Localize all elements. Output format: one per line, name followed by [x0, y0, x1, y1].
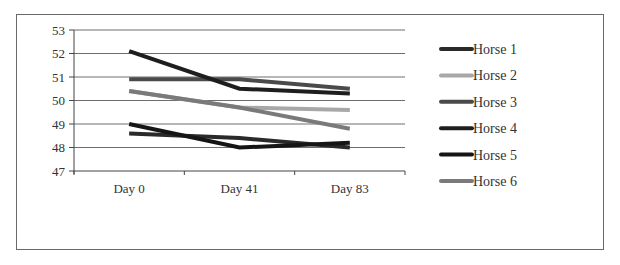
y-tick-label: 50: [52, 93, 65, 108]
x-tick-label: Day 41: [221, 181, 259, 196]
legend-label: Horse 6: [473, 174, 517, 189]
legend-label: Horse 4: [473, 121, 517, 136]
legend-item: Horse 1: [441, 42, 517, 57]
y-tick-label: 51: [52, 70, 65, 85]
legend-item: Horse 3: [441, 95, 517, 110]
legend-item: Horse 5: [441, 148, 517, 163]
legend-label: Horse 2: [473, 68, 517, 83]
line-chart: 47484950515253 Day 0Day 41Day 83 Horse 1…: [0, 0, 620, 265]
legend-item: Horse 2: [441, 68, 517, 83]
y-tick-label: 49: [52, 117, 65, 132]
x-tick-label: Day 83: [331, 181, 369, 196]
y-axis-tick-labels: 47484950515253: [52, 23, 66, 179]
y-tick-label: 53: [52, 23, 65, 38]
legend-label: Horse 5: [473, 148, 517, 163]
x-tick-label: Day 0: [113, 181, 144, 196]
legend-item: Horse 4: [441, 121, 517, 136]
axes: [69, 30, 405, 175]
y-tick-label: 48: [52, 140, 65, 155]
y-tick-label: 52: [52, 46, 65, 61]
legend-label: Horse 3: [473, 95, 517, 110]
legend: Horse 1Horse 2Horse 3Horse 4Horse 5Horse…: [441, 42, 517, 189]
x-axis-tick-labels: Day 0Day 41Day 83: [113, 181, 368, 196]
legend-item: Horse 6: [441, 174, 517, 189]
legend-label: Horse 1: [473, 42, 517, 57]
y-tick-label: 47: [52, 164, 66, 179]
data-series: [129, 51, 350, 147]
